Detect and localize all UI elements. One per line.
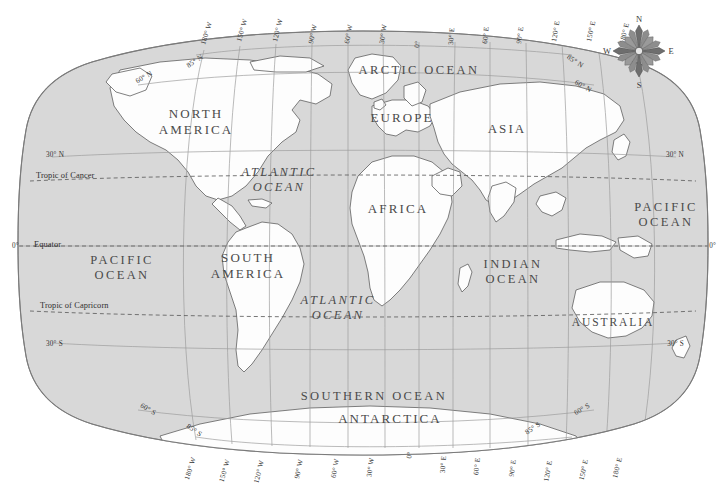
continent-label-europe: EUROPE xyxy=(370,110,433,125)
compass-label-east: E xyxy=(668,46,673,56)
ocean-label-atlantic-south-line2: OCEAN xyxy=(312,308,364,322)
lon-label-bottom-120w: 120° W xyxy=(253,460,266,485)
compass-center-ring xyxy=(635,47,643,55)
lon-label-bottom-30w: 30° W xyxy=(365,457,376,477)
lon-label-bottom-180w: 180° W xyxy=(183,456,198,481)
compass-label-west: W xyxy=(603,46,611,56)
ocean-label-pacific-west-line2: OCEAN xyxy=(94,268,149,282)
lat-label-right-0: 0° xyxy=(709,242,716,250)
lat-label-left-30n: 30° N xyxy=(46,151,65,159)
ocean-label-atlantic-north-line1: ATLANTIC xyxy=(241,165,317,179)
continent-label-australia: AUSTRALIA xyxy=(572,316,654,328)
world-map: NORTH AMERICA SOUTH AMERICA EUROPE AFRIC… xyxy=(0,0,727,486)
continent-label-south-america-line2: AMERICA xyxy=(211,266,286,281)
ocean-label-pacific-east-line1: PACIFIC xyxy=(634,200,698,214)
lon-label-top-0: 0° xyxy=(413,41,422,49)
lat-label-right-30n: 30° N xyxy=(666,151,685,159)
lon-label-bottom-60w: 60° W xyxy=(330,458,341,479)
lon-label-bottom-180e: 180° E xyxy=(611,456,624,479)
continent-label-north-america-line1: NORTH xyxy=(169,106,224,121)
lon-label-top-30e: 30° E xyxy=(447,27,456,45)
lat-label-left-0: 0° xyxy=(12,242,19,250)
ocean-label-atlantic-south-line1: ATLANTIC xyxy=(300,293,376,307)
ocean-label-atlantic-north-line2: OCEAN xyxy=(253,180,305,194)
world-map-canvas: NORTH AMERICA SOUTH AMERICA EUROPE AFRIC… xyxy=(0,0,727,486)
lon-label-bottom-120e: 120° E xyxy=(542,460,554,483)
lon-label-bottom-90e: 90° E xyxy=(508,459,518,478)
continent-label-africa: AFRICA xyxy=(368,201,428,216)
lon-label-bottom-150w: 150° W xyxy=(218,458,232,483)
lon-label-bottom-150e: 150° E xyxy=(578,458,590,481)
ocean-label-indian-line2: OCEAN xyxy=(485,272,540,286)
label-tropic-of-capricorn: Tropic of Capricorn xyxy=(40,301,109,310)
label-equator: Equator xyxy=(34,240,61,249)
lon-label-top-150e: 150° E xyxy=(585,20,597,43)
longitude-labels-bottom: 180° W 150° W 120° W 90° W 60° W 30° W 0… xyxy=(183,451,624,484)
lon-label-bottom-90w: 90° W xyxy=(293,459,305,480)
lat-label-right-30s: 30° S xyxy=(667,340,684,348)
compass-label-north: N xyxy=(636,14,642,24)
lon-label-bottom-30e: 30° E xyxy=(439,455,448,473)
ocean-label-pacific-west-line1: PACIFIC xyxy=(90,253,154,267)
ocean-label-indian-line1: INDIAN xyxy=(484,257,543,271)
lon-label-top-120e: 120° E xyxy=(550,20,562,43)
label-tropic-of-cancer: Tropic of Cancer xyxy=(36,171,95,180)
lon-label-bottom-0: 0° xyxy=(405,451,414,459)
lon-label-bottom-60e: 60° E xyxy=(472,457,482,475)
continent-label-antarctica: ANTARCTICA xyxy=(338,411,442,426)
ocean-label-pacific-east-line2: OCEAN xyxy=(638,215,693,229)
continent-label-asia: ASIA xyxy=(488,121,527,136)
compass-label-south: S xyxy=(637,80,642,90)
ocean-label-southern: SOUTHERN OCEAN xyxy=(301,389,447,403)
continent-label-south-america-line1: SOUTH xyxy=(221,250,275,265)
lat-label-left-30s: 30° S xyxy=(46,340,63,348)
ocean-label-arctic: ARCTIC OCEAN xyxy=(359,63,480,77)
continent-label-north-america-line2: AMERICA xyxy=(159,122,234,137)
